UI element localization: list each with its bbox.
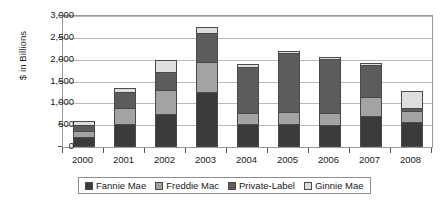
x-axis-tick-label: 2007 — [350, 154, 390, 165]
bar-group-2008 — [401, 91, 423, 147]
x-axis-tick-label: 2000 — [63, 154, 103, 165]
bar-segment — [319, 113, 341, 125]
bar-segment — [114, 108, 136, 124]
y-axis-tick-label: 3,000 — [24, 10, 74, 20]
legend-swatch-icon — [228, 182, 236, 190]
x-axis-tick-label: 2008 — [391, 154, 431, 165]
bar-segment — [237, 113, 259, 124]
x-axis: 200020012002200320042005200620072008 — [62, 148, 433, 170]
bars-container — [63, 16, 432, 147]
bar-group-2004 — [237, 64, 259, 147]
plot-area — [62, 15, 433, 148]
x-axis-tick-label: 2003 — [186, 154, 226, 165]
x-axis-tick-mark — [103, 148, 104, 153]
bar-segment — [196, 33, 218, 61]
y-axis-tick-mark — [58, 146, 62, 147]
bar-segment — [278, 53, 300, 112]
x-axis-tick-label: 2001 — [104, 154, 144, 165]
legend-swatch-icon — [304, 182, 312, 190]
x-axis-tick-mark — [431, 148, 432, 153]
bar-segment — [155, 90, 177, 114]
x-axis-tick-mark — [185, 148, 186, 153]
y-axis-tick-mark — [58, 124, 62, 125]
bar-segment — [196, 92, 218, 147]
legend-item-fannie-mae[interactable]: Fannie Mae — [85, 180, 146, 191]
chart-legend: Fannie MaeFreddie MacPrivate-LabelGinnie… — [78, 177, 371, 194]
bar-segment — [401, 122, 423, 147]
x-axis-tick-mark — [267, 148, 268, 153]
x-axis-tick-label: 2006 — [309, 154, 349, 165]
y-axis-tick-label: 500 — [24, 119, 74, 129]
bar-segment — [114, 124, 136, 147]
x-axis-tick-mark — [390, 148, 391, 153]
bar-group-2001 — [114, 88, 136, 147]
x-axis-tick-mark — [226, 148, 227, 153]
bar-segment — [196, 62, 218, 93]
x-axis-tick-mark — [308, 148, 309, 153]
legend-label: Freddie Mac — [166, 180, 219, 191]
y-axis-tick-mark — [58, 59, 62, 60]
x-axis-tick-label: 2002 — [145, 154, 185, 165]
legend-label: Private-Label — [239, 180, 295, 191]
bar-segment — [155, 114, 177, 147]
bar-segment — [155, 72, 177, 90]
legend-swatch-icon — [155, 182, 163, 190]
bar-segment — [237, 124, 259, 147]
legend-item-ginnie-mae[interactable]: Ginnie Mae — [304, 180, 364, 191]
x-axis-tick-mark — [144, 148, 145, 153]
bar-group-2002 — [155, 60, 177, 147]
legend-label: Fannie Mae — [96, 180, 146, 191]
bar-group-2006 — [319, 57, 341, 147]
y-axis-tick-mark — [58, 37, 62, 38]
bar-group-2007 — [360, 63, 382, 147]
x-axis-tick-mark — [349, 148, 350, 153]
legend-swatch-icon — [85, 182, 93, 190]
x-axis-tick-label: 2004 — [227, 154, 267, 165]
bar-segment — [114, 92, 136, 108]
bar-segment — [401, 91, 423, 108]
y-axis-tick-label: 1,500 — [24, 76, 74, 86]
bar-group-2000 — [73, 121, 95, 147]
legend-label: Ginnie Mae — [315, 180, 364, 191]
bar-group-2005 — [278, 51, 300, 147]
bar-segment — [278, 112, 300, 124]
y-axis-tick-label: 1,000 — [24, 97, 74, 107]
y-axis-tick-mark — [58, 15, 62, 16]
y-axis-tick-label: 2,000 — [24, 54, 74, 64]
bar-group-2003 — [196, 27, 218, 147]
bar-segment — [278, 124, 300, 147]
legend-item-freddie-mac[interactable]: Freddie Mac — [155, 180, 219, 191]
x-axis-tick-mark — [62, 148, 63, 153]
legend-item-private-label[interactable]: Private-Label — [228, 180, 295, 191]
y-axis-tick-mark — [58, 102, 62, 103]
bar-segment — [360, 65, 382, 96]
bar-segment — [401, 111, 423, 122]
x-axis-tick-label: 2005 — [268, 154, 308, 165]
bar-segment — [319, 59, 341, 113]
bar-segment — [237, 67, 259, 113]
y-axis-tick-label: 2,500 — [24, 32, 74, 42]
bar-segment — [73, 137, 95, 147]
bar-segment — [360, 116, 382, 147]
y-axis-tick-mark — [58, 81, 62, 82]
bar-segment — [319, 125, 341, 147]
bar-segment — [360, 97, 382, 117]
bar-segment — [155, 60, 177, 72]
stacked-bar-chart: $ in Billions 05001,0001,5002,0002,5003,… — [0, 0, 440, 203]
